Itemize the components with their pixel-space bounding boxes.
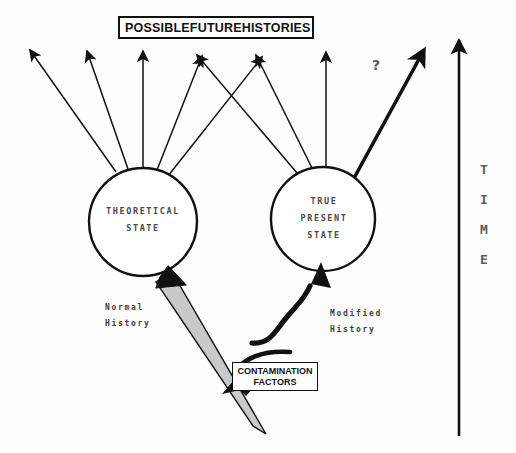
- future-arrow-t1: [30, 50, 116, 172]
- true-present-future-arrows: [197, 52, 326, 173]
- normal-history-label: Normal History: [105, 300, 151, 332]
- contamination-factors-line-1: CONTAMINATION: [237, 366, 312, 377]
- possible-future-histories-banner: POSSIBLE FUTURE HISTORIES: [118, 16, 314, 39]
- future-arrow-p2: [256, 55, 312, 168]
- banner-word-histories: HISTORIES: [242, 21, 311, 35]
- time-axis-label: T I M E: [473, 155, 495, 275]
- future-arrow-t4: [157, 56, 202, 170]
- time-letter-m: M: [473, 215, 495, 245]
- banner-word-possible: POSSIBLE: [125, 21, 190, 35]
- future-arrow-p1: [197, 55, 297, 173]
- modified-history-label-line-2: History: [330, 322, 382, 338]
- modified-history-label: Modified History: [330, 306, 382, 338]
- time-letter-e: E: [473, 245, 495, 275]
- theoretical-future-arrows: [30, 50, 262, 176]
- contamination-factors-box: CONTAMINATION FACTORS: [232, 362, 318, 391]
- contamination-factors-line-2: FACTORS: [254, 377, 297, 388]
- uncertainty-question-mark: ?: [372, 57, 380, 73]
- modified-history-label-line-1: Modified: [330, 306, 382, 322]
- future-arrow-t2: [87, 51, 128, 169]
- time-letter-t: T: [473, 155, 495, 185]
- future-arrow-t5: [168, 57, 262, 176]
- normal-history-label-line-2: History: [105, 316, 151, 332]
- uncertain-future-arrow: [353, 50, 424, 180]
- modified-history-curve: [252, 262, 331, 343]
- true-present-state-circle: [271, 167, 375, 271]
- banner-word-future: FUTURE: [190, 21, 242, 35]
- time-letter-i: I: [473, 185, 495, 215]
- diagram-canvas: POSSIBLE FUTURE HISTORIES THEORETICAL ST…: [0, 0, 516, 453]
- theoretical-state-circle: [89, 168, 197, 276]
- normal-history-band: [156, 266, 266, 434]
- normal-history-label-line-1: Normal: [105, 300, 151, 316]
